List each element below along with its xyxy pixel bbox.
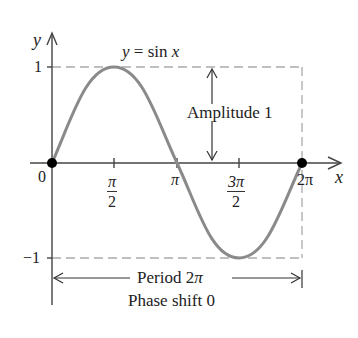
amplitude-label: Amplitude 1 bbox=[185, 104, 274, 121]
two-pi-point bbox=[297, 158, 307, 168]
x-tick-three-pi-half: 3π 2 bbox=[227, 174, 245, 210]
x-axis-label: x bbox=[335, 168, 343, 186]
period-label: Period 2π bbox=[137, 269, 203, 286]
axes bbox=[30, 33, 341, 305]
origin-label: 0 bbox=[38, 169, 46, 185]
x-tick-pi-half: π 2 bbox=[107, 174, 117, 210]
phase-shift-label: Phase shift 0 bbox=[128, 292, 215, 309]
y-axis-label: y bbox=[33, 31, 41, 49]
function-title: y = sin x bbox=[122, 43, 179, 60]
y-tick-1: 1 bbox=[34, 59, 42, 75]
origin-point bbox=[47, 158, 57, 168]
x-tick-pi: π bbox=[171, 172, 179, 188]
y-tick-neg-1: −1 bbox=[23, 250, 40, 266]
x-tick-two-pi: 2π bbox=[297, 172, 313, 188]
